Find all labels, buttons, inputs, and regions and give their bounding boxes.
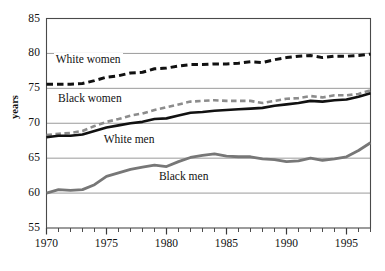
x-tick-label: 1975 — [85, 237, 129, 249]
series-line-black-men — [47, 143, 371, 193]
x-tick-label: 1970 — [25, 237, 69, 249]
series-annotation-black-women: Black women — [56, 92, 124, 104]
x-tick-label: 1980 — [145, 237, 189, 249]
chart-canvas — [0, 0, 385, 271]
y-tick-label: 80 — [14, 46, 40, 58]
y-tick-label: 85 — [14, 12, 40, 24]
y-tick-label: 60 — [14, 186, 40, 198]
series-annotation-white-women: White women — [54, 53, 123, 65]
y-tick-label: 55 — [14, 221, 40, 233]
y-tick-label: 75 — [14, 81, 40, 93]
axis-ticks — [47, 228, 371, 235]
y-tick-label: 65 — [14, 151, 40, 163]
x-tick-label: 1985 — [205, 237, 249, 249]
x-tick-label: 1990 — [265, 237, 309, 249]
y-tick-label: 70 — [14, 116, 40, 128]
x-tick-label: 1995 — [325, 237, 369, 249]
series-annotation-black-men: Black men — [157, 170, 211, 182]
life-expectancy-chart: years 5560657075808519701975198019851990… — [0, 0, 385, 271]
series-annotation-white-men: White men — [102, 133, 157, 145]
